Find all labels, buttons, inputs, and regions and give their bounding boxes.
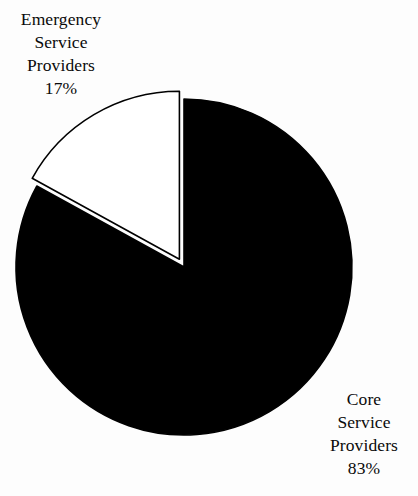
pie-label-core-line-1: Core xyxy=(310,388,418,411)
pie-label-emergency-service-providers: Emergency Service Providers 17% xyxy=(0,8,122,100)
pie-chart-figure: Emergency Service Providers 17% Core Ser… xyxy=(0,0,418,496)
pie-label-emergency-percent: 17% xyxy=(0,77,122,100)
pie-label-emergency-line-3: Providers xyxy=(0,54,122,77)
pie-label-core-service-providers: Core Service Providers 83% xyxy=(310,388,418,480)
pie-label-core-line-3: Providers xyxy=(310,434,418,457)
pie-label-emergency-line-2: Service xyxy=(0,31,122,54)
pie-label-core-percent: 83% xyxy=(310,457,418,480)
pie-label-emergency-line-1: Emergency xyxy=(0,8,122,31)
pie-label-core-line-2: Service xyxy=(310,411,418,434)
